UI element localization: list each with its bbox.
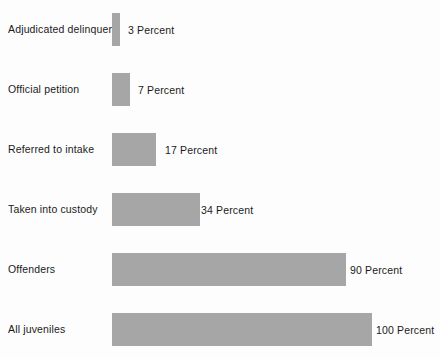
bar-track: 17 Percent <box>112 133 372 166</box>
chart-row: Offenders 90 Percent <box>0 253 440 286</box>
bar-track: 3 Percent <box>112 13 372 46</box>
horizontal-bar-chart: Adjudicated delinquent 3 Percent Officia… <box>0 0 440 359</box>
bar <box>112 133 156 166</box>
chart-row: Official petition 7 Percent <box>0 73 440 106</box>
bar-value-label: 17 Percent <box>165 144 217 155</box>
bar-value-label: 100 Percent <box>376 324 434 335</box>
bar-category-label: Taken into custody <box>8 204 108 215</box>
chart-row: Adjudicated delinquent 3 Percent <box>0 13 440 46</box>
chart-row: All juveniles 100 Percent <box>0 313 440 346</box>
bar-category-label: Offenders <box>8 264 108 275</box>
bar-value-label: 34 Percent <box>201 204 253 215</box>
bar-category-label: All juveniles <box>8 324 108 335</box>
bar-track: 34 Percent <box>112 193 372 226</box>
bar <box>112 253 346 286</box>
bar <box>112 313 372 346</box>
bar <box>112 193 200 226</box>
bar-value-label: 90 Percent <box>350 264 402 275</box>
bar-value-label: 3 Percent <box>128 24 174 35</box>
bar-category-label: Referred to intake <box>8 144 108 155</box>
chart-row: Taken into custody 34 Percent <box>0 193 440 226</box>
bar-track: 90 Percent <box>112 253 372 286</box>
bar <box>112 73 130 106</box>
bar-track: 7 Percent <box>112 73 372 106</box>
bar-value-label: 7 Percent <box>138 84 184 95</box>
bar-category-label: Official petition <box>8 84 108 95</box>
bar <box>112 13 120 46</box>
chart-row: Referred to intake 17 Percent <box>0 133 440 166</box>
bar-category-label: Adjudicated delinquent <box>8 24 108 35</box>
bar-track: 100 Percent <box>112 313 372 346</box>
